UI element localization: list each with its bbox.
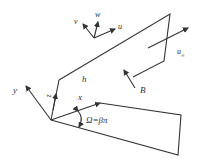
- label-angle: Ω=βπ: [86, 116, 108, 125]
- label-v: v: [74, 18, 78, 26]
- w-vector: [94, 22, 98, 38]
- v-vector: [83, 24, 94, 38]
- angle-arc: [78, 111, 81, 127]
- u-vector: [94, 29, 115, 38]
- z-axis: [53, 94, 56, 110]
- y-axis: [26, 86, 51, 120]
- wedge-diagram: v w u h u∞ B y z x Ω=βπ: [0, 0, 199, 166]
- lower-plate: [51, 103, 181, 155]
- b-arrow: [124, 70, 135, 88]
- label-h: h: [82, 75, 87, 84]
- label-u-inf: u∞: [177, 48, 185, 58]
- label-w: w: [95, 11, 100, 19]
- label-b: B: [140, 86, 146, 95]
- label-z: z: [45, 94, 53, 97]
- label-u: u: [118, 23, 122, 31]
- diagram-graphic: [0, 0, 199, 166]
- label-x: x: [78, 93, 82, 102]
- label-y: y: [13, 86, 17, 95]
